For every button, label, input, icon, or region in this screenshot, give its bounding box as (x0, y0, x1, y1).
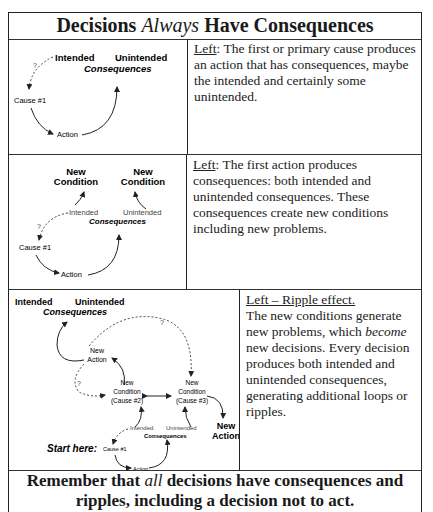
svg-text:Intended: Intended (69, 208, 98, 217)
worksheet-frame: Decisions Always Have Consequences ? Int… (8, 12, 422, 512)
svg-text:Consequences: Consequences (43, 307, 107, 317)
svg-text:Unintended: Unintended (75, 297, 125, 307)
svg-text:New: New (120, 379, 133, 386)
divider (187, 39, 188, 154)
panel-2-description: Left: The first action produces conseque… (193, 157, 417, 237)
panel-1: ? Intended Unintended Consequences Cause… (9, 39, 421, 155)
page-title: Decisions Always Have Consequences (9, 13, 421, 40)
simple-loop-diagram: ? Intended Unintended Consequences Cause… (9, 39, 187, 153)
svg-text:?: ? (77, 380, 81, 387)
svg-text:?: ? (160, 319, 164, 326)
svg-text:Consequences: Consequences (84, 63, 152, 74)
svg-text:Action: Action (61, 270, 82, 279)
svg-text:Action: Action (87, 356, 107, 363)
svg-text:Cause #1: Cause #1 (14, 96, 46, 105)
svg-text:Condition: Condition (54, 176, 99, 187)
panel-3-description: Left – Ripple effect.The new conditions … (246, 292, 422, 420)
svg-text:Intended: Intended (130, 425, 153, 431)
divider (239, 290, 240, 470)
svg-text:New: New (185, 379, 198, 386)
svg-text:Unintended: Unintended (166, 425, 197, 431)
svg-text:(Cause #3): (Cause #3) (176, 397, 208, 405)
svg-text:Unintended: Unintended (115, 52, 167, 63)
svg-text:Action: Action (133, 466, 148, 470)
svg-text:(Cause #2): (Cause #2) (111, 397, 143, 405)
question-mark: ? (33, 62, 37, 69)
svg-text:Cause #1: Cause #1 (19, 243, 51, 252)
svg-text:Unintended: Unintended (123, 208, 161, 217)
svg-text:Condition: Condition (121, 176, 166, 187)
svg-text:Intended: Intended (15, 297, 53, 307)
svg-text:New: New (217, 421, 237, 431)
svg-text:Cause #1: Cause #1 (103, 446, 127, 452)
svg-text:New: New (90, 347, 105, 354)
svg-text:Action: Action (57, 130, 78, 139)
panel-3: Intended Unintended Consequences New Act… (9, 290, 421, 471)
divider (186, 155, 187, 289)
svg-text:Condition: Condition (178, 388, 206, 395)
svg-text:Consequences: Consequences (144, 433, 187, 439)
panel-2: New Condition New Condition Intended Uni… (9, 155, 421, 290)
panel-1-description: Left: The first or primary cause produce… (194, 41, 416, 105)
start-here-label: Start here: (47, 443, 97, 454)
conditions-diagram: New Condition New Condition Intended Uni… (9, 155, 186, 288)
ripple-effect-diagram: Intended Unintended Consequences New Act… (9, 290, 239, 470)
svg-text:Intended: Intended (55, 52, 95, 63)
svg-text:?: ? (37, 223, 41, 230)
svg-text:Consequences: Consequences (89, 217, 146, 226)
footer-reminder: Remember that all decisions have consequ… (9, 471, 421, 511)
svg-text:Action: Action (212, 431, 239, 441)
svg-text:Condition: Condition (113, 388, 141, 395)
